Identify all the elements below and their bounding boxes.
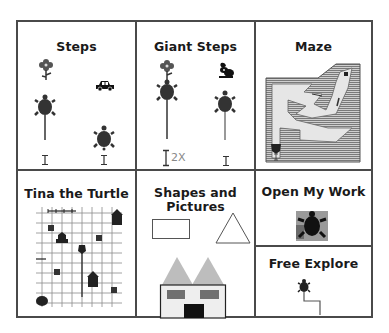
tile-title: Maze [256, 39, 371, 54]
turtle-icon [156, 79, 178, 139]
tile-title: Free Explore [256, 256, 371, 271]
turtle-icon [34, 94, 56, 140]
step-marker-icon [42, 155, 48, 165]
turtle-icon [93, 125, 115, 151]
house-picture-icon [160, 257, 228, 319]
flower-icon [38, 58, 54, 80]
tile-giant-steps[interactable]: Giant Steps 2X [137, 22, 254, 169]
rectangle-shape-icon [152, 219, 190, 239]
tile-steps[interactable]: Steps [18, 22, 135, 169]
tile-title: Open My Work [256, 184, 371, 199]
car-icon [95, 79, 115, 91]
multiplier-label: 2X [171, 151, 186, 164]
rabbit-icon [217, 62, 235, 78]
turtle-icon [214, 90, 236, 140]
maze-image [266, 64, 360, 162]
tile-free-explore[interactable]: Free Explore [256, 247, 371, 316]
turtle-path-icon [298, 279, 328, 315]
step-marker-icon [101, 155, 107, 165]
coordinate-grid-image [36, 207, 122, 307]
giant-step-marker-icon [163, 150, 169, 166]
tile-title: Shapes and [137, 185, 254, 200]
tile-maze[interactable]: Maze [256, 22, 371, 169]
tile-shapes-and-pictures[interactable]: Shapes and Pictures [137, 171, 254, 316]
tile-open-my-work[interactable]: Open My Work [256, 171, 371, 245]
tile-title: Giant Steps [137, 39, 254, 54]
activity-menu-grid: Steps G [16, 20, 373, 318]
tile-tina-the-turtle[interactable]: Tina the Turtle [18, 171, 135, 316]
tile-title: Steps [18, 39, 135, 54]
flower-icon [159, 59, 175, 81]
step-marker-icon [223, 156, 229, 166]
triangle-shape-icon [215, 212, 251, 244]
tile-title: Tina the Turtle [18, 186, 135, 201]
saved-work-turtle-icon [296, 211, 328, 241]
